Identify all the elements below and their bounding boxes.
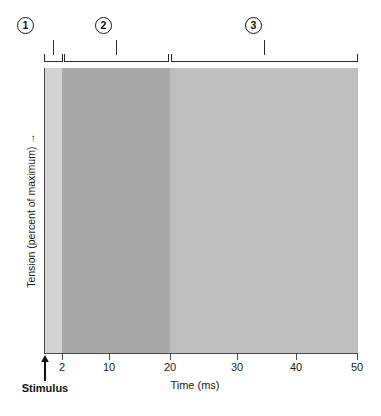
phase-bracket-1 <box>44 54 63 62</box>
x-tick-label-50: 50 <box>347 360 367 374</box>
phase-bracket-stem-3 <box>264 40 265 55</box>
phase-bracket-stem-1 <box>53 40 54 55</box>
x-tick-label-30: 30 <box>227 360 247 374</box>
phase-number-1: 1 <box>17 17 34 34</box>
x-tick-mark-40 <box>296 353 297 360</box>
x-tick-mark-20 <box>170 353 171 360</box>
x-axis-line <box>44 353 358 354</box>
x-axis-title: Time (ms) <box>145 378 245 392</box>
phase-3-band <box>170 68 358 353</box>
phase-number-2: 2 <box>95 17 112 34</box>
phase-bracket-2 <box>64 54 169 62</box>
x-tick-label-2: 2 <box>52 360 72 374</box>
plot-area <box>45 68 358 353</box>
x-tick-label-40: 40 <box>286 360 306 374</box>
x-tick-label-20: 20 <box>160 360 180 374</box>
phase-bracket-3 <box>171 54 358 62</box>
stimulus-label: Stimulus <box>8 381 82 395</box>
phase-1-band <box>45 68 62 353</box>
y-axis-line <box>44 68 45 354</box>
x-tick-mark-2 <box>62 353 63 360</box>
x-tick-label-10: 10 <box>99 360 119 374</box>
x-tick-mark-50 <box>357 353 358 360</box>
stimulus-arrow-icon <box>41 355 49 381</box>
phase-bracket-stem-2 <box>116 40 117 55</box>
phase-number-3: 3 <box>245 17 262 34</box>
x-tick-mark-30 <box>237 353 238 360</box>
x-tick-mark-10 <box>109 353 110 360</box>
phase-2-band <box>62 68 170 353</box>
y-axis-title: Tension (percent of maximum) → <box>22 68 40 353</box>
muscle-tension-phase-figure: 1 2 3 2 10 20 30 40 50 Tension (percent … <box>0 0 381 416</box>
